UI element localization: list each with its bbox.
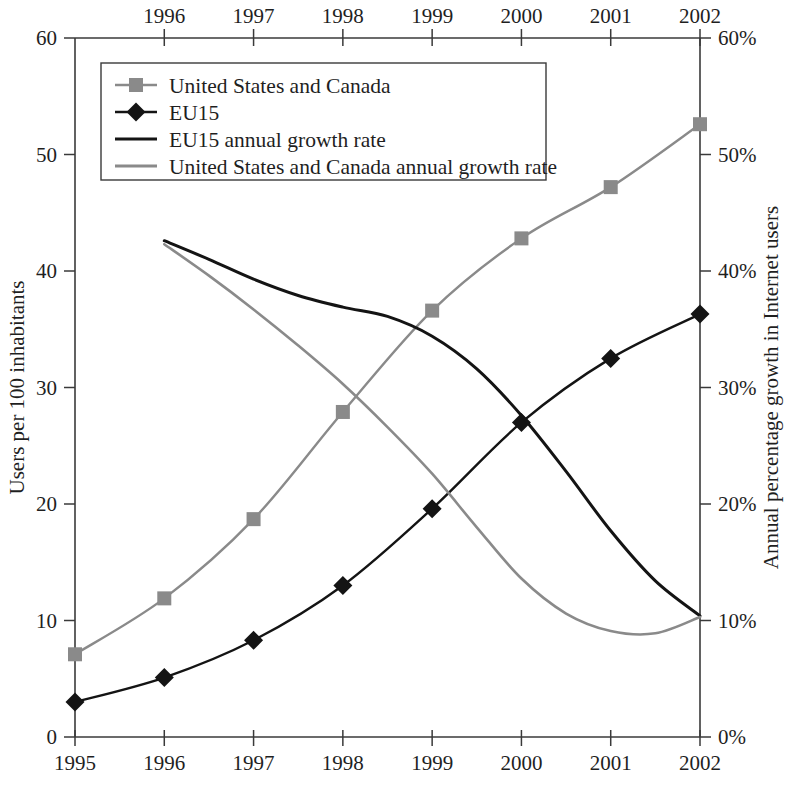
axis-top-tick-label: 1996	[143, 4, 185, 28]
axis-top-tick-label: 1997	[233, 4, 275, 28]
legend-item-label: EU15 annual growth rate	[169, 128, 386, 152]
data-point-marker	[155, 668, 174, 687]
data-point-marker	[333, 576, 352, 595]
axis-left-tick-label: 50	[36, 143, 57, 167]
axis-left-tick-label: 0	[47, 725, 58, 749]
axis-top-tick-label: 2000	[500, 4, 542, 28]
axis-top-tick-label: 2002	[679, 4, 721, 28]
data-point-marker	[68, 647, 82, 661]
legend-item-label: EU15	[169, 101, 219, 125]
series-line	[164, 244, 700, 634]
data-point-marker	[691, 305, 710, 324]
series-none-right	[164, 244, 700, 634]
legend-item-label: United States and Canada annual growth r…	[169, 155, 557, 179]
data-point-marker	[514, 231, 528, 245]
data-point-marker	[157, 591, 171, 605]
axis-left-tick-label: 10	[36, 609, 57, 633]
data-point-marker	[336, 405, 350, 419]
chart-container: 1996199719981999200020012002 19951996199…	[0, 0, 789, 789]
series-line	[75, 314, 700, 702]
series-square-left	[68, 117, 707, 661]
axis-right-ticks: 0%10%20%30%40%50%60%	[700, 26, 757, 749]
axis-bottom-tick-label: 1996	[143, 751, 185, 775]
axis-right-tick-label: 20%	[718, 492, 757, 516]
axis-right-tick-label: 10%	[718, 609, 757, 633]
axis-right-tick-label: 50%	[718, 143, 757, 167]
axis-top-tick-label: 1999	[411, 4, 453, 28]
axis-top-tick-label: 1998	[322, 4, 364, 28]
axis-left-tick-label: 20	[36, 492, 57, 516]
axis-bottom-tick-label: 1997	[233, 751, 275, 775]
series-line	[164, 241, 700, 616]
legend-square-icon	[129, 78, 143, 92]
data-point-marker	[244, 631, 263, 650]
axis-left-title: Users per 100 inhabitants	[5, 280, 29, 494]
data-point-marker	[693, 117, 707, 131]
series-diamond-left	[66, 305, 710, 712]
axis-left-ticks: 0102030405060	[36, 26, 75, 749]
axis-right-tick-label: 40%	[718, 259, 757, 283]
axis-right-tick-label: 60%	[718, 26, 757, 50]
data-point-marker	[66, 693, 85, 712]
data-point-marker	[425, 304, 439, 318]
axis-bottom-tick-label: 2002	[679, 751, 721, 775]
data-point-marker	[604, 180, 618, 194]
axis-top-ticks: 1996199719981999200020012002	[143, 4, 721, 46]
axis-right-tick-label: 30%	[718, 376, 757, 400]
legend-item[interactable]: United States and Canada annual growth r…	[115, 155, 557, 179]
line-chart: 1996199719981999200020012002 19951996199…	[0, 0, 789, 789]
chart-legend: United States and CanadaEU15EU15 annual …	[101, 63, 557, 180]
axis-bottom-tick-label: 1998	[322, 751, 364, 775]
data-point-marker	[247, 512, 261, 526]
axis-bottom-tick-label: 1995	[54, 751, 96, 775]
legend-item-label: United States and Canada	[169, 74, 391, 98]
series-line	[75, 124, 700, 654]
axis-right-title: Annual percentage growth in Internet use…	[759, 206, 783, 569]
axis-left-tick-label: 30	[36, 376, 57, 400]
axis-left-tick-label: 40	[36, 259, 57, 283]
series-layer	[66, 117, 710, 711]
series-none-right	[164, 241, 700, 616]
axis-right-tick-label: 0%	[718, 725, 746, 749]
axis-bottom-tick-label: 2000	[500, 751, 542, 775]
data-point-marker	[601, 349, 620, 368]
axis-bottom-tick-label: 1999	[411, 751, 453, 775]
axis-top-tick-label: 2001	[590, 4, 632, 28]
axis-left-tick-label: 60	[36, 26, 57, 50]
axis-bottom-tick-label: 2001	[590, 751, 632, 775]
